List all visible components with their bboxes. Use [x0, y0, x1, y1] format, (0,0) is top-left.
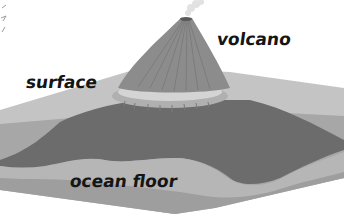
volcano-cone [118, 18, 230, 93]
volcano-label: volcano [216, 29, 293, 49]
sketch-marks [1, 5, 6, 32]
volcano-crater [180, 17, 192, 21]
smoke-plume [185, 0, 204, 16]
volcano-diagram: volcano surface ocean floor [0, 0, 344, 219]
ocean-floor-label: ocean floor [69, 171, 179, 191]
surface-label: surface [25, 72, 99, 92]
